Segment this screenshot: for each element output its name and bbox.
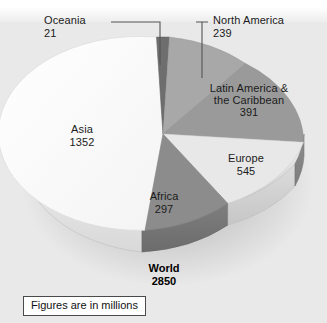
- slice-label-oceania-value: 21: [44, 27, 118, 40]
- slice-label-oceania: Oceania 21: [44, 14, 118, 39]
- slice-label-europe-name: Europe: [228, 152, 264, 164]
- slice-label-europe-value: 545: [214, 165, 278, 178]
- slice-label-latin-america-line2: the Caribbean: [194, 94, 304, 106]
- units-note-box: Figures are in millions: [23, 296, 146, 316]
- slice-label-africa-name: Africa: [150, 190, 179, 202]
- slice-label-africa-value: 297: [136, 203, 192, 216]
- slice-label-latin-america: Latin America & the Caribbean 391: [194, 82, 304, 118]
- slice-label-north-america-value: 239: [213, 27, 323, 40]
- pie-chart-figure: Oceania 21 North America 239 Latin Ameri…: [0, 0, 327, 323]
- slice-label-europe: Europe 545: [214, 152, 278, 177]
- slice-label-latin-america-line1: Latin America &: [210, 82, 289, 94]
- slice-label-north-america-name: North America: [213, 14, 284, 26]
- slice-label-oceania-name: Oceania: [44, 14, 86, 26]
- units-note-text: Figures are in millions: [31, 299, 138, 311]
- slice-label-asia-name: Asia: [71, 123, 93, 135]
- slice-label-asia-value: 1352: [50, 136, 114, 149]
- total-label-world-name: World: [149, 262, 180, 274]
- total-label-world-value: 2850: [152, 275, 176, 287]
- total-label-world: World 2850: [129, 262, 199, 287]
- slice-label-asia: Asia 1352: [50, 123, 114, 148]
- slice-label-latin-america-value: 391: [194, 106, 304, 118]
- slice-label-africa: Africa 297: [136, 190, 192, 215]
- slice-label-north-america: North America 239: [213, 14, 323, 39]
